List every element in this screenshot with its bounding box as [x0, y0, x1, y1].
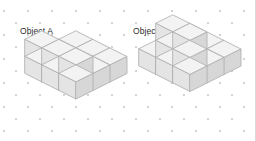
- top-cutoff-text-row: nnnnnnnnnnnnnnnnnnnnnnnnnnnnn: [0, 0, 256, 5]
- worksheet-canvas: nnnnnnnnnnnnnnnnnnnnnnnnnnnnn Object A O…: [0, 0, 256, 141]
- object-a-figure: [24, 30, 134, 122]
- object-b-figure: [138, 14, 248, 122]
- cutoff-text: nnnnnnnnnnnnnnnnnnnnnnnnnnnnn: [62, 0, 197, 2]
